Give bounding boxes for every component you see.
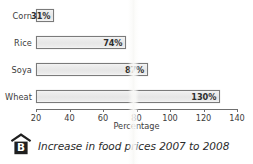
caption-text: Increase in food prices 2007 to 2008 — [38, 141, 229, 156]
bar-row-corn: Corn 31% — [36, 9, 237, 22]
figure-caption: B Increase in food prices 2007 to 2008 — [9, 131, 229, 155]
house-b-icon: B — [9, 131, 33, 155]
x-tick-100 — [170, 109, 171, 112]
category-label-soya: Soya — [12, 65, 32, 75]
bar-soya[interactable]: 87% — [36, 63, 148, 76]
x-axis-title: Percentage — [36, 121, 237, 131]
x-tick-40 — [70, 109, 71, 112]
x-tick-20 — [36, 109, 37, 112]
category-label-wheat: Wheat — [5, 92, 32, 102]
bar-corn[interactable]: 31% — [36, 9, 54, 22]
bar-row-rice: Rice 74% — [36, 36, 237, 49]
x-tick-120 — [204, 109, 205, 112]
plot-area: Corn 31% Rice 74% Soya 87% Wheat 130% — [36, 6, 237, 107]
x-tick-140 — [237, 109, 238, 112]
bar-value-wheat: 130% — [191, 92, 216, 102]
bar-row-soya: Soya 87% — [36, 63, 237, 76]
bar-value-corn: 31% — [31, 11, 50, 21]
bar-value-soya: 87% — [125, 65, 144, 75]
chart-figure: Corn 31% Rice 74% Soya 87% Wheat 130% 20… — [0, 0, 253, 164]
x-axis: 20406080100120140 — [36, 109, 237, 110]
bar-rice[interactable]: 74% — [36, 36, 126, 49]
bar-wheat[interactable]: 130% — [36, 90, 220, 103]
bar-row-wheat: Wheat 130% — [36, 90, 237, 103]
x-tick-80 — [137, 109, 138, 112]
svg-text:B: B — [17, 141, 25, 153]
category-label-rice: Rice — [14, 38, 32, 48]
x-tick-60 — [103, 109, 104, 112]
category-label-corn: Corn — [12, 11, 32, 21]
bar-value-rice: 74% — [103, 38, 122, 48]
